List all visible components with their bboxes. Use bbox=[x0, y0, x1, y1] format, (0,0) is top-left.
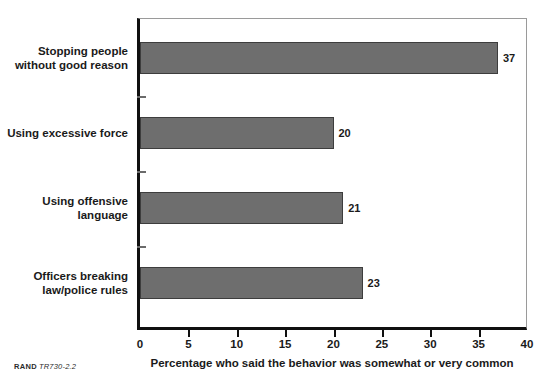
y-axis-tick bbox=[137, 96, 146, 98]
x-axis-tick bbox=[334, 330, 336, 337]
bar-value-label: 23 bbox=[363, 277, 380, 289]
category-label: Officers breakinglaw/police rules bbox=[0, 267, 128, 299]
x-axis-tick-label: 30 bbox=[424, 338, 437, 350]
x-axis-tick-label: 40 bbox=[521, 338, 534, 350]
bar bbox=[140, 42, 498, 74]
bar bbox=[140, 192, 343, 224]
x-axis-tick-label: 25 bbox=[375, 338, 388, 350]
x-axis-title: Percentage who said the behavior was som… bbox=[137, 357, 527, 369]
category-label-text: Using excessive force bbox=[0, 126, 128, 140]
x-axis-tick-label: 10 bbox=[230, 338, 243, 350]
source-note-rand: RAND bbox=[14, 362, 37, 371]
figure-container: 37202123 Stopping peoplewithout good rea… bbox=[0, 0, 558, 385]
category-label: Using excessive force bbox=[0, 117, 128, 149]
x-axis-tick bbox=[382, 330, 384, 337]
bar-value-label: 20 bbox=[334, 127, 351, 139]
bar-row: 20 bbox=[140, 117, 558, 149]
x-axis-tick bbox=[430, 330, 432, 337]
x-axis-tick bbox=[285, 330, 287, 337]
source-note: RAND TR730-2.2 bbox=[14, 362, 76, 371]
bar bbox=[140, 267, 363, 299]
bar-row: 23 bbox=[140, 267, 558, 299]
bar-value-label: 37 bbox=[498, 52, 515, 64]
bar-value-label: 21 bbox=[343, 202, 360, 214]
category-label-text: Using offensivelanguage bbox=[0, 194, 128, 222]
category-label: Using offensivelanguage bbox=[0, 192, 128, 224]
x-axis-tick-label: 20 bbox=[327, 338, 340, 350]
x-axis-tick bbox=[479, 330, 481, 337]
category-label: Stopping peoplewithout good reason bbox=[0, 42, 128, 74]
category-label-text: Officers breakinglaw/police rules bbox=[0, 269, 128, 297]
y-axis-tick bbox=[137, 171, 146, 173]
x-axis-tick bbox=[237, 330, 239, 337]
bar-row: 37 bbox=[140, 42, 558, 74]
x-axis-tick-label: 15 bbox=[279, 338, 292, 350]
source-note-report-id: TR730-2.2 bbox=[39, 362, 76, 371]
category-label-text: Stopping peoplewithout good reason bbox=[0, 44, 128, 72]
x-axis-tick-label: 0 bbox=[137, 338, 143, 350]
bar-row: 21 bbox=[140, 192, 558, 224]
bar bbox=[140, 117, 334, 149]
y-axis-tick bbox=[137, 246, 146, 248]
x-axis-tick-label: 5 bbox=[185, 338, 191, 350]
x-axis-tick-label: 35 bbox=[472, 338, 485, 350]
x-axis-tick bbox=[188, 330, 190, 337]
